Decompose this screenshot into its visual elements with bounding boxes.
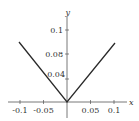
x-tick-label: 0.1 [108, 106, 121, 115]
x-tick-label: -0.05 [33, 106, 54, 115]
chart: x y -0.1 -0.05 0.05 0.1 0.1 0.08 0.04 [0, 0, 139, 121]
x-axis-label: x [129, 98, 134, 107]
y-tick-label: 0.1 [50, 26, 63, 35]
x-tick-label: -0.1 [12, 106, 27, 115]
y-ticks: 0.1 0.08 0.04 [45, 26, 69, 79]
y-axis-label: y [65, 8, 71, 17]
x-tick-label: 0.05 [82, 106, 100, 115]
y-tick-label: 0.04 [47, 70, 65, 79]
y-tick-label: 0.08 [45, 50, 63, 59]
